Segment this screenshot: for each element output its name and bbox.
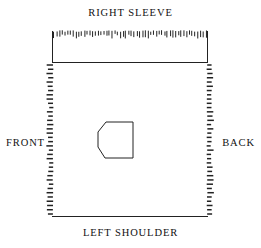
- back-edge-stitch-ticks: [207, 65, 214, 214]
- label-front: FRONT: [6, 138, 45, 149]
- garment-panel-diagram: RIGHT SLEEVE LEFT SHOULDER FRONT BACK: [0, 0, 261, 248]
- label-back: BACK: [222, 138, 255, 149]
- sleeve-stitch-ticks: [53, 30, 206, 38]
- body-panel-group: [46, 63, 214, 217]
- sleeve-bracket-group: [53, 30, 208, 62]
- figure-drawing: [0, 0, 261, 248]
- center-pentagon-shape: [98, 122, 133, 158]
- label-right-sleeve: RIGHT SLEEVE: [0, 8, 261, 19]
- front-edge-stitch-ticks: [46, 65, 53, 214]
- label-left-shoulder: LEFT SHOULDER: [0, 228, 261, 239]
- center-neckline-shape-group: [98, 122, 133, 158]
